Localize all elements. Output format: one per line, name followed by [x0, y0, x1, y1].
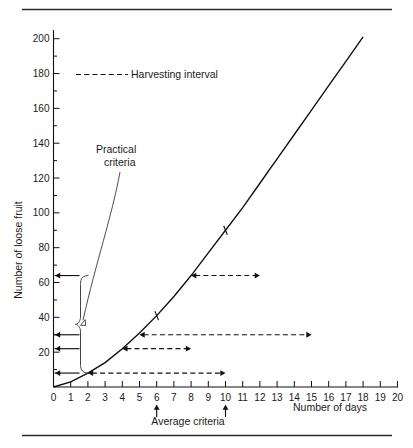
y-tick-label-200: 200 — [33, 33, 50, 44]
x-tick-label-4: 4 — [120, 392, 126, 403]
x-tick-label-7: 7 — [171, 392, 177, 403]
x-tick-label-0: 0 — [51, 392, 57, 403]
x-tick-label-3: 3 — [102, 392, 108, 403]
x-tick-label-12: 12 — [254, 392, 266, 403]
y-tick-label-160: 160 — [33, 103, 50, 114]
x-tick-label-11: 11 — [238, 392, 249, 403]
x-tick-label-10: 10 — [220, 392, 232, 403]
figure-container: 20406080100120140160180200 0123456789101… — [0, 0, 413, 448]
y-tick-label-80: 80 — [38, 242, 50, 253]
y-tick-label-100: 100 — [33, 207, 50, 218]
x-tick-label-2: 2 — [85, 392, 91, 403]
average-criteria-label: Average criteria — [151, 415, 225, 427]
y-tick-label-180: 180 — [33, 68, 50, 79]
x-axis-title: Number of days — [293, 401, 367, 413]
loose-fruit-chart: 20406080100120140160180200 0123456789101… — [0, 0, 413, 448]
y-tick-label-120: 120 — [33, 173, 50, 184]
x-tick-label-9: 9 — [206, 392, 212, 403]
y-tick-label-60: 60 — [38, 277, 50, 288]
y-axis-title: Number of loose fruit — [12, 201, 24, 299]
x-tick-label-19: 19 — [375, 392, 387, 403]
x-tick-label-8: 8 — [188, 392, 194, 403]
x-tick-label-13: 13 — [272, 392, 284, 403]
practical-criteria-label-line2: criteria — [104, 156, 136, 168]
practical-criteria-label-line1: Practical — [96, 143, 136, 155]
legend-label-harvesting-interval: Harvesting interval — [131, 68, 218, 80]
x-tick-label-20: 20 — [392, 392, 404, 403]
x-tick-label-1: 1 — [68, 392, 74, 403]
x-tick-label-6: 6 — [154, 392, 160, 403]
x-tick-label-5: 5 — [137, 392, 143, 403]
y-tick-label-140: 140 — [33, 138, 50, 149]
y-tick-label-40: 40 — [38, 312, 50, 323]
y-tick-label-20: 20 — [38, 347, 50, 358]
